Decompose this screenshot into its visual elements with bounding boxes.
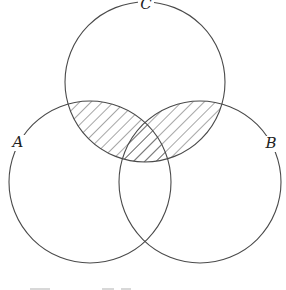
set-c-label: C (140, 0, 152, 13)
set-b-label: B (264, 134, 276, 152)
venn-diagram: C A B (0, 0, 286, 290)
set-a-label: A (11, 133, 24, 151)
shaded-region-a-union-b-intersect-c (9, 101, 281, 263)
